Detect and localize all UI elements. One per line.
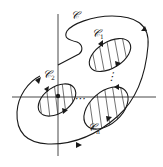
horizontal-dots: ⋯ bbox=[74, 92, 85, 105]
hole-contour-n bbox=[76, 79, 136, 138]
label-outer-contour: 𝒞 bbox=[71, 9, 82, 22]
contour-diagram: ⋮ ⋯ 𝒞 𝒞 1 𝒞 2 𝒞 n bbox=[0, 0, 163, 167]
label-hole-1-sub: 1 bbox=[100, 33, 104, 40]
vertical-dots: ⋮ bbox=[106, 70, 117, 83]
label-hole-n-sub: n bbox=[96, 128, 100, 135]
arrow-icon bbox=[76, 142, 82, 148]
arrow-icon bbox=[114, 84, 119, 90]
origin-dot bbox=[56, 94, 60, 98]
label-hole-2-sub: 2 bbox=[51, 74, 55, 81]
